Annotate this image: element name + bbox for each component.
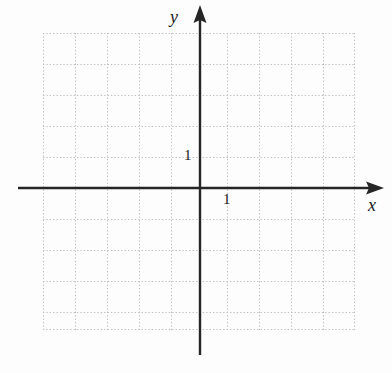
graph-figure: y x 1 1 (0, 0, 392, 373)
y-axis-label: y (170, 8, 178, 26)
x-axis-tick-label-1: 1 (223, 192, 231, 207)
coordinate-plane (0, 0, 392, 373)
y-axis (194, 5, 207, 355)
y-axis-tick-label-1: 1 (184, 148, 192, 163)
x-axis-label: x (368, 196, 376, 214)
